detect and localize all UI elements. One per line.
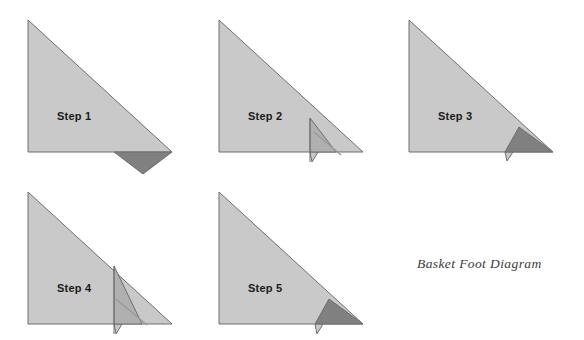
step-5-figure [0,0,584,340]
step-5-label: Step 5 [248,282,282,294]
step-5-base-triangle [219,192,363,324]
step-5-small-tab [315,324,323,334]
basket-foot-diagram: Step 1 Step 2 Step 3 Step 4 Step 5 Baske… [0,0,584,340]
diagram-caption: Basket Foot Diagram [417,256,542,272]
